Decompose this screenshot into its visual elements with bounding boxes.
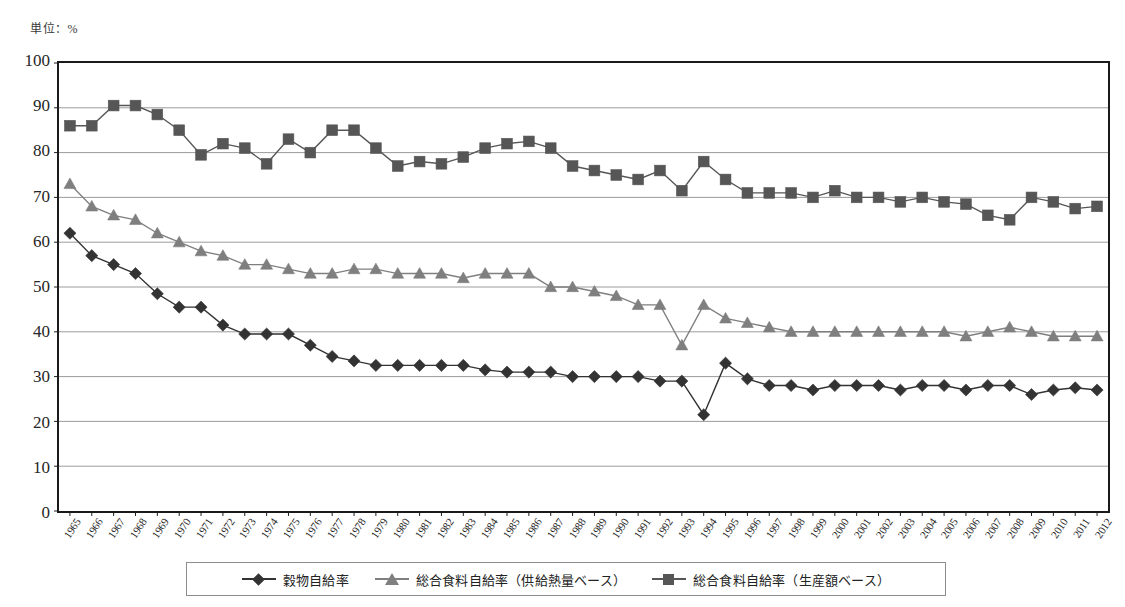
data-point-diamond <box>392 359 404 371</box>
data-point-square <box>982 210 993 221</box>
y-axis-tick-label: 50 <box>8 277 50 297</box>
legend-item-1[interactable]: 穀物自給率 <box>242 570 349 589</box>
data-point-square <box>829 185 840 196</box>
data-point-diamond <box>348 355 360 367</box>
x-axis-tick-label: 1981 <box>412 516 434 540</box>
data-point-square <box>589 165 600 176</box>
x-axis-tick-label: 1970 <box>171 516 193 540</box>
data-point-square <box>371 143 382 154</box>
data-point-square <box>502 138 513 149</box>
data-point-square <box>1004 214 1015 225</box>
y-axis-tick-label: 70 <box>8 187 50 207</box>
data-point-triangle <box>64 178 76 189</box>
data-point-square <box>742 188 753 199</box>
data-point-diamond <box>435 359 447 371</box>
x-axis-tick-label: 1990 <box>610 516 632 540</box>
data-point-diamond <box>741 373 753 385</box>
x-axis-tick-label: 1985 <box>500 516 522 540</box>
triangle-icon <box>385 573 399 585</box>
x-axis-tick-label: 1979 <box>368 516 390 540</box>
data-point-square <box>392 161 403 172</box>
x-axis-tick-label: 1978 <box>346 516 368 540</box>
y-axis-tick-label: 60 <box>8 232 50 252</box>
data-point-square <box>764 188 775 199</box>
legend-label: 穀物自給率 <box>283 570 349 589</box>
data-point-diamond <box>282 328 294 340</box>
data-point-square <box>327 125 338 136</box>
data-point-diamond <box>588 371 600 383</box>
x-axis-tick-label: 1975 <box>280 516 302 540</box>
data-point-square <box>939 197 950 208</box>
data-point-diamond <box>479 364 491 376</box>
legend-marker-diamond-icon <box>242 573 276 585</box>
x-axis-tick-label: 1998 <box>785 516 807 540</box>
x-axis-tick-label: 1969 <box>149 516 171 540</box>
data-point-diamond <box>1004 380 1016 392</box>
data-point-diamond <box>566 371 578 383</box>
legend-item-3[interactable]: 総合食料自給率（生産額ベース） <box>652 570 890 589</box>
chart-legend: 穀物自給率総合食料自給率（供給熱量ベース）総合食料自給率（生産額ベース） <box>186 562 946 596</box>
data-point-square <box>283 134 294 145</box>
x-axis-tick-label: 2004 <box>917 516 939 540</box>
x-axis-tick-label: 2005 <box>939 516 961 540</box>
legend-item-2[interactable]: 総合食料自給率（供給熱量ベース） <box>375 570 626 589</box>
data-point-square <box>1070 203 1081 214</box>
x-axis-tick-label: 1977 <box>324 516 346 540</box>
diamond-icon <box>252 573 265 586</box>
x-axis-tick-label: 2008 <box>1004 516 1026 540</box>
legend-marker-square-icon <box>652 573 686 585</box>
x-axis-tick-label: 1973 <box>237 516 259 540</box>
data-point-diamond <box>1069 382 1081 394</box>
data-point-diamond <box>654 375 666 387</box>
data-series-layer <box>59 63 1108 511</box>
data-point-square <box>86 120 97 131</box>
data-point-diamond <box>960 384 972 396</box>
plot-area <box>57 61 1110 513</box>
data-point-square <box>261 158 272 169</box>
data-point-triangle <box>108 209 120 220</box>
y-axis-tick-label: 80 <box>8 141 50 161</box>
data-point-diamond <box>108 259 120 271</box>
x-axis-tick-label: 1986 <box>522 516 544 540</box>
x-axis-tick-label: 2012 <box>1092 516 1114 540</box>
data-point-square <box>1048 197 1059 208</box>
data-point-triangle <box>1004 321 1016 332</box>
data-point-square <box>108 100 119 111</box>
data-point-square <box>720 174 731 185</box>
x-axis-tick-label: 1995 <box>719 516 741 540</box>
data-point-square <box>851 192 862 203</box>
data-point-square <box>196 149 207 160</box>
data-point-diamond <box>457 359 469 371</box>
x-axis-tick-label: 2006 <box>961 516 983 540</box>
y-axis-tick-label: 10 <box>8 458 50 478</box>
legend-label: 総合食料自給率（供給熱量ベース） <box>416 570 626 589</box>
data-point-diamond <box>610 371 622 383</box>
data-point-diamond <box>1025 388 1037 400</box>
x-axis-tick-label: 1971 <box>193 516 215 540</box>
data-point-diamond <box>698 409 710 421</box>
data-point-square <box>480 143 491 154</box>
data-point-diamond <box>239 328 251 340</box>
chart-page: 単位：% 0102030405060708090100 196519661967… <box>0 0 1125 607</box>
data-point-triangle <box>676 339 688 350</box>
x-axis-tick-label: 2003 <box>895 516 917 540</box>
x-axis-tick-label: 2010 <box>1048 516 1070 540</box>
data-point-square <box>1026 192 1037 203</box>
data-point-diamond <box>719 357 731 369</box>
x-axis-tick-label: 1997 <box>763 516 785 540</box>
data-point-triangle <box>698 299 710 310</box>
x-axis-tick-label: 1987 <box>544 516 566 540</box>
data-point-square <box>873 192 884 203</box>
x-axis-tick-label: 1966 <box>83 516 105 540</box>
x-axis-tick-label: 1982 <box>434 516 456 540</box>
x-axis-tick-label: 2000 <box>829 516 851 540</box>
x-axis-tick-label: 1991 <box>631 516 653 540</box>
data-point-square <box>567 161 578 172</box>
x-axis-tick-label: 2007 <box>982 516 1004 540</box>
data-point-diamond <box>261 328 273 340</box>
x-axis-tick-label: 1974 <box>259 516 281 540</box>
data-point-triangle <box>151 227 163 238</box>
data-point-square <box>218 138 229 149</box>
data-point-diamond <box>523 366 535 378</box>
data-point-diamond <box>1047 384 1059 396</box>
